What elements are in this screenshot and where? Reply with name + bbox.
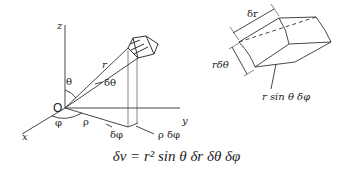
- origin-label: O: [53, 101, 62, 115]
- theta-arc: [65, 90, 76, 98]
- volume-element-enlarged: [229, 4, 331, 89]
- volume-formula: δv = r² sin θ δr δθ δφ: [0, 148, 353, 165]
- r-dtheta-label: rδθ: [212, 59, 229, 70]
- phi-label: φ: [55, 117, 62, 128]
- radius-line: [65, 48, 128, 108]
- y-axis-label: y: [181, 115, 188, 126]
- coordinate-system: [22, 25, 180, 134]
- rho-line: [65, 108, 128, 127]
- x-axis-label: x: [22, 131, 28, 142]
- theta-label: θ: [66, 76, 72, 87]
- volume-element-small: [128, 36, 158, 58]
- rho-dphi-label: ρ δφ: [158, 129, 180, 140]
- r-sin-theta-dphi-label: r sin θ δφ: [262, 91, 310, 102]
- dr-label: δr: [247, 8, 258, 19]
- dphi-label: δφ: [110, 129, 123, 140]
- dtheta-label: δθ: [104, 77, 116, 88]
- z-axis-label: z: [56, 20, 63, 31]
- rho-label: ρ: [83, 116, 89, 127]
